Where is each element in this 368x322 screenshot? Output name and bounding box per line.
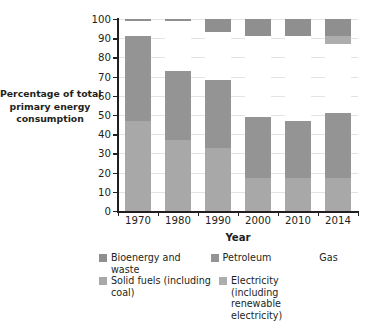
gridline	[118, 134, 358, 135]
legend-label-solid-fuels-line-2: coal)	[111, 287, 134, 298]
gridline	[118, 192, 358, 193]
legend-label-bioenergy: Bioenergy and waste	[111, 252, 211, 275]
bar-segment-solid-fuels[interactable]	[205, 148, 231, 211]
legend-swatch-icon-bioenergy	[99, 254, 107, 262]
bar-segment-gas[interactable]	[325, 44, 351, 113]
legend-label-solid-fuels-line-1: Solid fuels (including	[111, 275, 211, 286]
bar-group[interactable]	[325, 19, 351, 211]
legend-swatch-icon-solid-fuels	[99, 277, 107, 285]
y-tick-label: 0	[105, 206, 111, 217]
bar-segment-petroleum[interactable]	[325, 113, 351, 178]
y-tick-label: 90	[98, 33, 111, 44]
legend-swatch-icon-petroleum	[211, 254, 219, 262]
legend-row-2: Solid fuels (including coal) Electricity…	[99, 275, 365, 321]
gridline	[118, 77, 358, 78]
bar-segment-petroleum[interactable]	[165, 71, 191, 140]
bar-segment-bioenergy[interactable]	[245, 19, 271, 36]
gridline	[118, 173, 358, 174]
legend-item-bioenergy-and-waste: Bioenergy and waste	[99, 252, 211, 275]
x-tick-label: 2010	[285, 215, 311, 226]
bar-segment-bioenergy[interactable]	[125, 19, 151, 21]
legend-label-petroleum: Petroleum	[223, 252, 308, 264]
bar-segment-solid-fuels[interactable]	[285, 178, 311, 211]
bar-segment-gas[interactable]	[205, 32, 231, 80]
y-tick-label: 70	[98, 71, 111, 82]
bar-group[interactable]	[245, 19, 271, 211]
y-axis-title-line-1: Percentage of total	[0, 88, 100, 101]
bar-segment-gas[interactable]	[245, 36, 271, 117]
plot-area: 0102030405060708090100 19701980199020002…	[118, 19, 358, 211]
bar-segment-bioenergy[interactable]	[285, 19, 311, 36]
legend-item-petroleum: Petroleum	[211, 252, 308, 264]
bar-group[interactable]	[285, 19, 311, 211]
gridline	[118, 19, 358, 20]
x-tick-label: 2000	[245, 215, 271, 226]
plot-frame: 0102030405060708090100 19701980199020002…	[118, 19, 358, 211]
bar-segment-solid-fuels[interactable]	[165, 140, 191, 211]
bar-segment-gas[interactable]	[285, 36, 311, 120]
bar-group[interactable]	[125, 19, 151, 211]
bar-segment-electricity[interactable]	[325, 36, 351, 44]
y-axis-title-line-2: primary energy	[0, 101, 100, 114]
bar-group[interactable]	[205, 19, 231, 211]
gridline	[118, 153, 358, 154]
bar-segment-solid-fuels[interactable]	[125, 121, 151, 211]
x-tick-label: 1990	[205, 215, 231, 226]
y-axis-line	[117, 18, 119, 212]
legend-label-gas: Gas	[319, 252, 365, 264]
legend-label-electricity-line-2: renewable electricity)	[231, 298, 282, 321]
gridline	[118, 38, 358, 39]
bar-segment-petroleum[interactable]	[285, 121, 311, 179]
x-tick-label: 1970	[125, 215, 151, 226]
legend-label-electricity-line-1: Electricity (including	[231, 275, 279, 298]
bar-segment-solid-fuels[interactable]	[245, 178, 271, 211]
chart-legend: Bioenergy and waste Petroleum Gas Solid …	[99, 252, 365, 322]
x-tick-label: 2014	[325, 215, 351, 226]
y-tick-label: 10	[98, 186, 111, 197]
legend-item-electricity: Electricity (including renewable electri…	[219, 275, 323, 321]
legend-swatch-icon-gas	[307, 254, 315, 262]
bar-segment-petroleum[interactable]	[205, 80, 231, 147]
x-axis-title: Year	[118, 232, 358, 243]
y-tick-label: 40	[98, 129, 111, 140]
legend-item-solid-fuels: Solid fuels (including coal)	[99, 275, 219, 298]
y-tick-label: 20	[98, 167, 111, 178]
legend-row-1: Bioenergy and waste Petroleum Gas	[99, 252, 365, 275]
bar-segment-petroleum[interactable]	[245, 117, 271, 178]
bar-segment-bioenergy[interactable]	[325, 19, 351, 36]
y-tick-label: 100	[92, 14, 111, 25]
gridline	[118, 57, 358, 58]
gridline	[118, 96, 358, 97]
y-tick-label: 30	[98, 148, 111, 159]
y-tick-label: 80	[98, 52, 111, 63]
y-tick-label: 60	[98, 90, 111, 101]
gridline	[118, 115, 358, 116]
x-tick-label: 1980	[165, 215, 191, 226]
y-axis-title: Percentage of total primary energy consu…	[0, 88, 100, 126]
legend-item-gas: Gas	[307, 252, 365, 264]
bar-segment-solid-fuels[interactable]	[325, 178, 351, 211]
legend-label-solid-fuels: Solid fuels (including coal)	[111, 275, 219, 298]
legend-label-electricity: Electricity (including renewable electri…	[231, 275, 323, 321]
y-tick-label: 50	[98, 110, 111, 121]
bar-segment-gas[interactable]	[165, 21, 191, 71]
bar-segment-petroleum[interactable]	[125, 36, 151, 120]
bar-segment-gas[interactable]	[125, 21, 151, 36]
y-axis-title-line-3: consumption	[0, 113, 100, 126]
bar-segment-bioenergy[interactable]	[165, 19, 191, 21]
bar-segment-bioenergy[interactable]	[205, 19, 231, 32]
x-axis-line	[117, 211, 359, 213]
bar-group[interactable]	[165, 19, 191, 211]
legend-swatch-icon-electricity	[219, 277, 227, 285]
